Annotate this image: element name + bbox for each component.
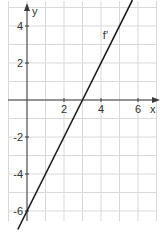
y-tick-label: -2	[13, 131, 23, 143]
x-tick-label: 2	[61, 103, 67, 115]
y-tick-label: 2	[17, 57, 23, 69]
x-axis-label: x	[150, 103, 156, 115]
y-tick-label: 4	[17, 20, 23, 32]
function-label: f'	[103, 29, 108, 41]
function-line	[18, 0, 133, 229]
series-lines	[18, 0, 133, 229]
x-tick-label: 6	[135, 103, 141, 115]
y-tick-label: -6	[13, 205, 23, 217]
y-axis-label: y	[32, 5, 38, 17]
y-tick-label: -4	[13, 168, 23, 180]
function-graph: 24642-2-4-6 x y f'	[0, 0, 163, 245]
x-tick-label: 4	[98, 103, 104, 115]
